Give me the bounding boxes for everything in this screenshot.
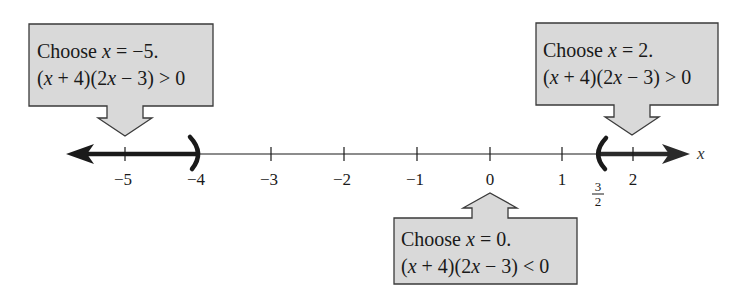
callout-right-inequality: (x + 4)(2x − 3) > 0: [543, 64, 691, 91]
tick-labels: −5 −4 −3 −2 −1 0 1 2: [114, 170, 637, 189]
callout-left-text: Choose x = −5. (x + 4)(2x − 3) > 0: [37, 38, 185, 92]
axis-variable-label: x: [696, 144, 705, 163]
svg-text:2: 2: [595, 194, 602, 209]
tick-label: −2: [333, 170, 351, 189]
callout-middle-line1: Choose x = 0.: [401, 226, 549, 253]
tick-label: 2: [629, 170, 638, 189]
tick-label: −3: [260, 170, 278, 189]
tick-label: 1: [558, 170, 567, 189]
tick-label: 0: [486, 170, 495, 189]
tick-label: −1: [406, 170, 424, 189]
callout-right-line1: Choose x = 2.: [543, 37, 691, 64]
tick-label: −5: [114, 170, 132, 189]
callout-left-inequality: (x + 4)(2x − 3) > 0: [37, 65, 185, 92]
svg-text:3: 3: [595, 179, 602, 194]
fraction-label-3-2: 3 2: [592, 179, 604, 209]
tick-label: −4: [187, 170, 206, 189]
callout-right-text: Choose x = 2. (x + 4)(2x − 3) > 0: [543, 37, 691, 91]
callout-left-line1: Choose x = −5.: [37, 38, 185, 65]
callout-middle-inequality: (x + 4)(2x − 3) < 0: [401, 253, 549, 280]
callout-middle-text: Choose x = 0. (x + 4)(2x − 3) < 0: [401, 226, 549, 280]
